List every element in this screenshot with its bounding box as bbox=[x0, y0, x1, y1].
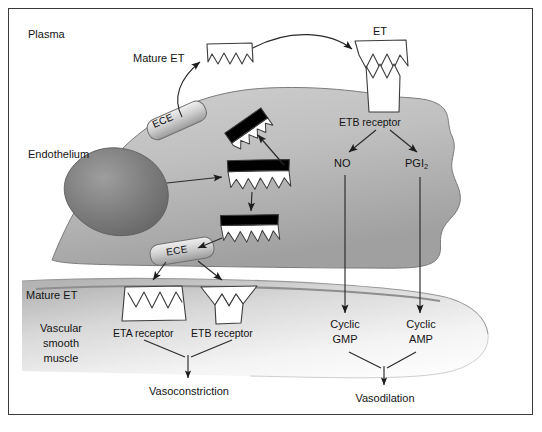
label-et-top: ET bbox=[373, 25, 387, 38]
compartment-label-smooth-muscle-line3: muscle bbox=[24, 352, 98, 365]
label-vasodilation: Vasodilation bbox=[336, 392, 434, 405]
compartment-label-smooth-muscle-line1: Vascular bbox=[24, 322, 98, 335]
label-mature-et-bottom: Mature ET bbox=[26, 289, 77, 302]
figure-canvas: Plasma Endothelium Vascular smooth muscl… bbox=[0, 0, 542, 432]
label-mature-et-top: Mature ET bbox=[133, 52, 184, 65]
et-molecule-top-right bbox=[355, 40, 408, 68]
compartment-label-plasma: Plasma bbox=[28, 28, 65, 41]
label-eta-receptor-bottom: ETA receptor bbox=[113, 327, 174, 339]
eta-receptor-bottom bbox=[122, 286, 186, 321]
label-pgi2-subscript: 2 bbox=[424, 162, 428, 171]
pathway-artwork bbox=[0, 0, 542, 432]
etb-receptor-top bbox=[366, 64, 400, 112]
label-cyclic-gmp-line1: Cyclic bbox=[318, 318, 372, 331]
compartment-label-endothelium: Endothelium bbox=[28, 148, 89, 161]
label-pgi2-base: PGI bbox=[405, 157, 424, 169]
label-vasoconstriction: Vasoconstriction bbox=[128, 385, 250, 398]
label-cyclic-gmp-line2: GMP bbox=[318, 333, 372, 346]
label-etb-receptor-top: ETB receptor bbox=[339, 116, 401, 128]
label-cyclic-amp-line2: AMP bbox=[394, 333, 448, 346]
mature-et-molecule-top bbox=[207, 43, 253, 64]
label-etb-receptor-bottom: ETB receptor bbox=[191, 327, 253, 339]
compartment-label-smooth-muscle-line2: smooth bbox=[24, 337, 98, 350]
label-pgi2: PGI2 bbox=[405, 157, 428, 170]
label-cyclic-amp-line1: Cyclic bbox=[394, 318, 448, 331]
label-no: NO bbox=[334, 157, 351, 170]
